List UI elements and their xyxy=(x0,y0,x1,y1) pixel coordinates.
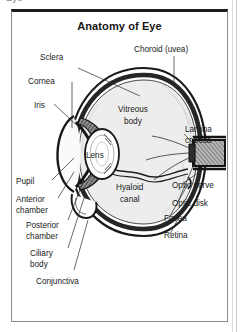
label-posterior-chamber-line2: chamber xyxy=(26,232,58,241)
eye-diagram-canvas: Sclera Cornea Iris Pupil Anterior chambe… xyxy=(12,12,227,323)
page-edge-inner-rule xyxy=(232,0,233,332)
cropped-text-remnant: Eye xyxy=(6,0,23,3)
page-edge-outer-rule xyxy=(236,0,237,332)
label-ciliary-body-line1: Ciliary xyxy=(30,249,54,258)
label-lens: Lens xyxy=(86,151,104,160)
optic-disk xyxy=(189,144,195,162)
label-anterior-chamber-line2: chamber xyxy=(16,206,48,215)
label-posterior-chamber-line1: Posterior xyxy=(26,221,59,230)
leader-conjunctiva xyxy=(74,220,88,270)
label-anterior-chamber-line1: Anterior xyxy=(16,195,45,204)
label-pupil: Pupil xyxy=(16,177,34,186)
label-optic-disk: Optic disk xyxy=(172,199,209,208)
label-optic-nerve: Optic nerve xyxy=(172,181,214,190)
label-lamina-cribosa-line2: cribosa xyxy=(185,136,212,145)
label-sclera: Sclera xyxy=(40,53,64,62)
label-hyaloid-canal-line1: Hyaloid xyxy=(116,183,144,192)
label-hyaloid-canal-line2: canal xyxy=(120,195,140,204)
label-vitreous-body-line1: Vitreous xyxy=(118,105,148,114)
label-fovea: Fovea xyxy=(164,214,187,223)
label-conjunctiva: Conjunctiva xyxy=(36,277,79,286)
label-vitreous-body-line2: body xyxy=(124,117,143,126)
label-lamina-cribosa-line1: Lamina xyxy=(185,125,212,134)
label-iris: Iris xyxy=(34,101,45,110)
label-choroid: Choroid (uvea) xyxy=(134,45,188,54)
label-cornea: Cornea xyxy=(28,77,55,86)
label-ciliary-body-line2: body xyxy=(30,260,49,269)
figure-frame: Anatomy of Eye xyxy=(11,9,228,322)
label-retina: Retina xyxy=(164,231,188,240)
